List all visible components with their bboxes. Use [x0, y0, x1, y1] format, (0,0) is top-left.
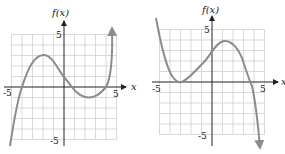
figure: f(x) x -5 5 5 -5 f(x) x -5 5 5 -5: [0, 0, 285, 154]
graph-right: f(x) x -5 5 5 -5: [152, 4, 285, 148]
ytick-max-left: 5: [56, 30, 62, 40]
ytick-max-right: 5: [204, 25, 210, 35]
xlabel-left: x: [131, 81, 137, 92]
curve-right: [156, 18, 260, 148]
ylabel-right: f(x): [201, 4, 219, 15]
xtick-max-right: 5: [260, 84, 266, 94]
ytick-min-left: -5: [50, 136, 59, 146]
ytick-min-right: -5: [198, 131, 207, 141]
xtick-min-right: -5: [152, 84, 161, 94]
xtick-min-left: -5: [3, 88, 12, 98]
ylabel-left: f(x): [51, 7, 69, 18]
xlabel-right: x: [281, 76, 285, 87]
graph-left: f(x) x -5 5 5 -5: [3, 7, 137, 146]
xtick-max-left: 5: [113, 89, 119, 99]
